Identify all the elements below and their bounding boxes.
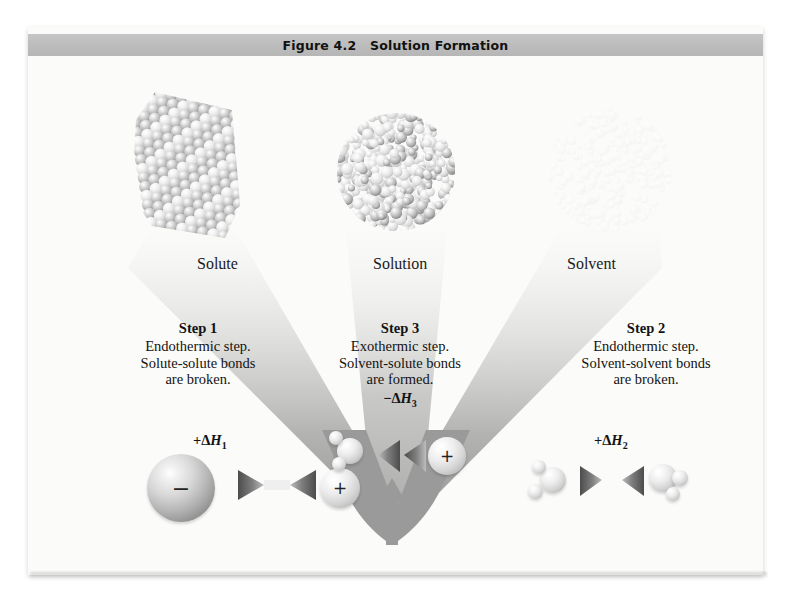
water-molecule-right-2: [644, 458, 700, 510]
step-3-text-block: Step 3 Exothermic step. Solvent-solute b…: [312, 320, 488, 410]
cation-sphere-center: [428, 437, 466, 475]
step-1-enthalpy: +ΔH1: [193, 432, 227, 451]
water-hydrogen-right-1a: [532, 460, 546, 474]
step-1-enthalpy-subscript: 1: [222, 440, 227, 451]
page-title: Figure 4.2 Solution Formation: [283, 38, 509, 53]
step-2-line-2: Solvent-solvent bonds: [540, 355, 752, 372]
step-1-line-2: Solute-solute bonds: [98, 355, 298, 372]
step-2-enthalpy-delta: Δ: [602, 432, 611, 448]
water-hydrogen-center-1: [329, 431, 343, 445]
water-hydrogen-right-2b: [666, 487, 680, 501]
water-molecule-right-1: [528, 460, 578, 508]
illustration-label-solvent: Solvent: [567, 255, 616, 273]
step-3-enthalpy-symbol: H: [401, 390, 412, 406]
step-2-text-block: Step 2 Endothermic step. Solvent-solvent…: [540, 320, 752, 388]
step-2-enthalpy: +ΔH2: [594, 432, 628, 451]
anion-sphere: [147, 454, 215, 522]
step-1-line-1: Endothermic step.: [98, 338, 298, 355]
step-1-enthalpy-symbol: H: [210, 432, 221, 448]
step-1-enthalpy-delta: Δ: [201, 432, 210, 448]
water-hydrogen-right-2a: [672, 470, 688, 486]
step-1-heading: Step 1: [98, 320, 298, 337]
step-3-line-2: Solvent-solute bonds: [312, 355, 488, 372]
step-3-enthalpy: −ΔH3: [312, 390, 488, 409]
step-2-line-3: are broken.: [540, 371, 752, 388]
step-1-line-3: are broken.: [98, 371, 298, 388]
step-2-enthalpy-subscript: 2: [623, 440, 628, 451]
step-2-heading: Step 2: [540, 320, 752, 337]
figure-page: Figure 4.2 Solution Formation: [0, 0, 787, 601]
illustration-label-solution: Solution: [373, 255, 427, 273]
water-molecule-center: [328, 430, 376, 478]
illustration-label-solute: Solute: [197, 255, 238, 273]
step-2-enthalpy-symbol: H: [611, 432, 622, 448]
step-1-text-block: Step 1 Endothermic step. Solute-solute b…: [98, 320, 298, 388]
step-2-line-1: Endothermic step.: [540, 338, 752, 355]
water-hydrogen-center-2: [332, 457, 346, 471]
step-3-enthalpy-delta: Δ: [391, 390, 400, 406]
plate-drop-shadow: [30, 572, 767, 579]
water-hydrogen-right-1b: [528, 484, 543, 499]
step-3-line-1: Exothermic step.: [312, 338, 488, 355]
step-3-enthalpy-subscript: 3: [412, 398, 417, 409]
step-3-line-3: are formed.: [312, 371, 488, 388]
step-3-heading: Step 3: [312, 320, 488, 337]
figure-title-bar: Figure 4.2 Solution Formation: [28, 34, 763, 56]
